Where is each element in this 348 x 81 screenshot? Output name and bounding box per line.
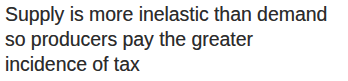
caption-line-2: so producers pay the greater xyxy=(5,27,348,52)
caption-line-3: incidence of tax xyxy=(5,52,348,77)
caption-line-1: Supply is more inelastic than demand xyxy=(5,2,348,27)
caption-text-block: Supply is more inelastic than demand so … xyxy=(0,0,348,81)
